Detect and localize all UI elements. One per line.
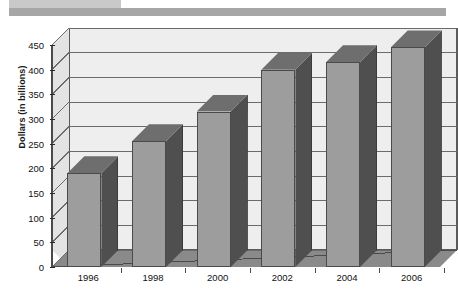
x-axis-tick-mark <box>121 268 122 273</box>
y-axis-tick-mark <box>50 267 55 268</box>
bar-2000 <box>197 112 231 267</box>
bar-side-face <box>295 53 312 267</box>
bar-side-face <box>425 30 442 267</box>
bar-front-face <box>261 70 295 267</box>
bar-1998 <box>132 141 166 267</box>
y-axis-tick-label: 150 <box>12 188 44 199</box>
bar-chart-figure: Dollars (in billions) 050100150200250300… <box>0 16 458 303</box>
y-axis-tick-label: 400 <box>12 64 44 75</box>
y-axis-tick-mark <box>50 119 55 120</box>
bar-front-face <box>197 112 231 267</box>
y-axis-tick-label: 50 <box>12 237 44 248</box>
y-axis-tick-mark <box>50 193 55 194</box>
y-axis-tick-mark <box>50 242 55 243</box>
x-axis-tick-label: 2006 <box>389 272 435 283</box>
x-axis-tick-mark <box>250 268 251 273</box>
y-axis: 050100150200250300350400450 <box>8 16 44 303</box>
y-axis-tick-mark <box>50 70 55 71</box>
bar-1996 <box>67 173 101 267</box>
x-axis-tick-mark <box>444 268 445 273</box>
bar-front-face <box>391 47 425 267</box>
bar-2002 <box>261 70 295 267</box>
header-band <box>0 0 458 16</box>
y-axis-tick-label: 200 <box>12 163 44 174</box>
x-axis-tick-label: 2004 <box>324 272 370 283</box>
y-axis-tick-mark <box>50 94 55 95</box>
bar-front-face <box>132 141 166 267</box>
x-axis-tick-label: 2002 <box>259 272 305 283</box>
bar-2006 <box>391 47 425 267</box>
y-axis-tick-label: 300 <box>12 114 44 125</box>
y-axis-tick-label: 250 <box>12 138 44 149</box>
header-band-light <box>9 0 121 8</box>
bar-side-face <box>166 124 183 267</box>
y-axis-tick-label: 350 <box>12 89 44 100</box>
y-axis-tick-mark <box>50 218 55 219</box>
bar-2004 <box>326 62 360 267</box>
bar-front-face <box>326 62 360 267</box>
x-axis-tick-mark <box>379 268 380 273</box>
y-axis-tick-label: 450 <box>12 40 44 51</box>
bar-side-face <box>231 95 248 267</box>
x-axis-tick-label: 1998 <box>130 272 176 283</box>
bar-side-face <box>360 45 377 267</box>
y-axis-tick-label: 100 <box>12 212 44 223</box>
header-band-dark <box>9 8 446 16</box>
x-axis-tick-label: 2000 <box>195 272 241 283</box>
y-axis-tick-mark <box>50 45 55 46</box>
y-axis-tick-label: 0 <box>12 262 44 273</box>
bar-side-face <box>101 156 118 267</box>
bar-front-face <box>67 173 101 267</box>
x-axis-tick-mark <box>185 268 186 273</box>
x-axis-tick-mark <box>315 268 316 273</box>
chart-plot-area <box>0 16 458 303</box>
x-axis-tick-label: 1996 <box>65 272 111 283</box>
y-axis-tick-mark <box>50 144 55 145</box>
y-axis-tick-mark <box>50 168 55 169</box>
